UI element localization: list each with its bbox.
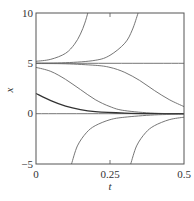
x-tick-025: 0.25 [100, 168, 120, 180]
y-tick-5: 5 [28, 57, 34, 69]
solution-curve [36, 64, 184, 107]
curves-group [36, 13, 184, 164]
y-tick-10: 10 [22, 7, 34, 19]
x-tick-05: 0.5 [177, 168, 191, 180]
solution-curve [36, 13, 138, 63]
y-axis-label: x [3, 87, 15, 93]
plot-frame [36, 13, 184, 164]
solution-curve [36, 94, 184, 114]
solution-curve [72, 114, 185, 164]
solution-curve [36, 13, 88, 61]
y-tick-neg5: −5 [21, 158, 33, 170]
y-tick-0: 0 [28, 107, 34, 119]
solution-curve [36, 67, 184, 113]
solution-curves-chart: 0 0.25 0.5 t 10 5 0 −5 x [0, 0, 194, 201]
solution-curve [131, 117, 184, 164]
x-axis-label: t [108, 180, 112, 192]
x-tick-0: 0 [33, 168, 39, 180]
